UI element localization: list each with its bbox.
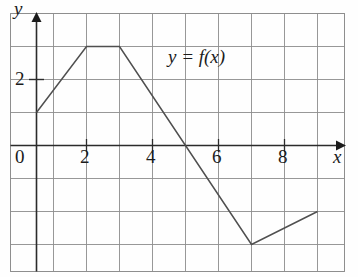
- function-label: y = f(x): [168, 46, 225, 68]
- x-axis-label: x: [333, 146, 341, 168]
- x-tick-label-0: 0: [15, 146, 25, 168]
- x-tick-label-4: 4: [146, 146, 156, 168]
- y-axis: [32, 12, 42, 272]
- graph-figure: y x 2 0 2 4 6 8 y = f(x): [0, 0, 358, 277]
- x-tick-label-8: 8: [278, 146, 288, 168]
- x-tick-label-2: 2: [80, 146, 90, 168]
- x-axis: [11, 141, 347, 151]
- graph-canvas: [0, 0, 358, 277]
- y-axis-label: y: [14, 0, 22, 20]
- y-tick-label-2: 2: [15, 68, 25, 90]
- x-tick-label-6: 6: [212, 146, 222, 168]
